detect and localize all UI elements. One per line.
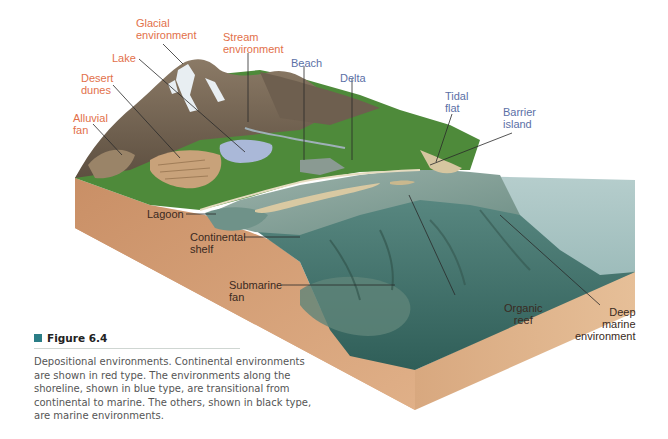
label-submarine-fan: Submarine fan (229, 279, 282, 303)
label-organic-reef: Organic reef (504, 302, 543, 326)
label-deep-marine-environment: Deep marine environment (575, 306, 636, 342)
label-barrier-island: Barrier island (503, 106, 536, 130)
label-tidal-flat: Tidal flat (445, 90, 468, 114)
figure-caption: Figure 6.4 Depositional environments. Co… (34, 332, 334, 423)
label-beach: Beach (291, 57, 322, 69)
label-lagoon: Lagoon (147, 208, 184, 220)
label-stream-environment: Stream environment (223, 31, 284, 55)
label-desert-dunes: Desert dunes (81, 72, 113, 96)
label-alluvial-fan: Alluvial fan (73, 112, 108, 136)
label-lake: Lake (112, 52, 136, 64)
label-glacial-environment: Glacial environment (136, 17, 197, 41)
caption-text: Depositional environments. Continental e… (34, 355, 324, 423)
label-continental-shelf: Continental shelf (190, 231, 246, 255)
figure-label: Figure 6.4 (47, 332, 107, 344)
figure-title: Figure 6.4 (34, 332, 240, 349)
figure-marker-icon (34, 334, 42, 342)
label-delta: Delta (340, 72, 366, 84)
